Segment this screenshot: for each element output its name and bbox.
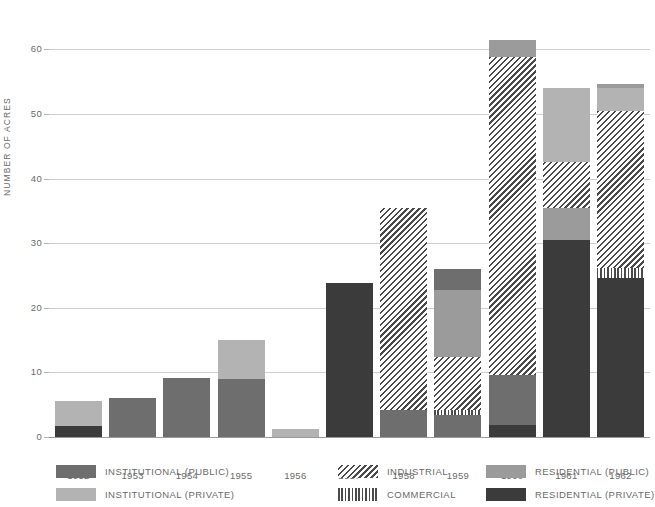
legend-swatch-industrial	[338, 465, 378, 478]
legend-label-res-pub: RESIDENTIAL (PUBLIC)	[535, 466, 649, 477]
legend-item-inst-pub[interactable]: INSTITUTIONAL (PUBLIC)	[56, 462, 234, 480]
bar-1962[interactable]	[597, 30, 644, 437]
legend-label-inst-pub: INSTITUTIONAL (PUBLIC)	[105, 466, 229, 477]
legend-swatch-res-priv	[486, 488, 526, 501]
bar-segment-1962-res-priv[interactable]	[597, 278, 644, 437]
y-tick-label-10: 10	[16, 366, 42, 377]
bar-1961[interactable]	[543, 30, 590, 437]
bar-1959[interactable]	[434, 30, 481, 437]
bar-1952[interactable]	[55, 30, 102, 437]
legend-column-1: INSTITUTIONAL (PUBLIC)INSTITUTIONAL (PRI…	[56, 462, 234, 507]
bar-segment-1957-res-priv[interactable]	[326, 283, 373, 437]
bar-1953[interactable]	[109, 30, 156, 437]
y-tick-label-50: 50	[16, 108, 42, 119]
y-tick-label-20: 20	[16, 302, 42, 313]
legend-label-res-priv: RESIDENTIAL (PRIVATE)	[535, 489, 655, 500]
legend-swatch-inst-pub	[56, 465, 96, 478]
bar-segment-1959-res-pub[interactable]	[434, 290, 481, 357]
legend-label-inst-priv: INSTITUTIONAL (PRIVATE)	[105, 489, 234, 500]
y-tick-label-60: 60	[16, 43, 42, 54]
bar-segment-1952-res-priv[interactable]	[55, 426, 102, 437]
bar-segment-1960-res-pub[interactable]	[489, 40, 536, 57]
chart-legend: INSTITUTIONAL (PUBLIC)INSTITUTIONAL (PRI…	[0, 462, 654, 506]
bar-segment-1958-industrial[interactable]	[380, 208, 427, 410]
legend-swatch-inst-priv	[56, 488, 96, 501]
bar-segment-1962-res-pub[interactable]	[597, 84, 644, 88]
gridline-0	[44, 437, 650, 438]
bar-segment-1962-industrial[interactable]	[597, 111, 644, 268]
bar-segment-1954-inst-pub[interactable]	[163, 378, 210, 437]
bar-segment-1960-inst-pub[interactable]	[489, 375, 536, 425]
y-tick-label-40: 40	[16, 173, 42, 184]
legend-label-industrial: INDUSTRIAL	[387, 466, 448, 477]
bar-segment-1958-inst-pub[interactable]	[380, 410, 427, 437]
bar-segment-1956-inst-priv[interactable]	[272, 429, 319, 437]
legend-item-res-priv[interactable]: RESIDENTIAL (PRIVATE)	[486, 485, 655, 503]
bar-segment-1953-inst-pub[interactable]	[109, 398, 156, 437]
bar-1957[interactable]	[326, 30, 373, 437]
bar-segment-1952-inst-priv[interactable]	[55, 401, 102, 426]
legend-column-3: RESIDENTIAL (PUBLIC)RESIDENTIAL (PRIVATE…	[486, 462, 655, 507]
bar-segment-1961-industrial[interactable]	[543, 162, 590, 208]
legend-item-inst-priv[interactable]: INSTITUTIONAL (PRIVATE)	[56, 485, 234, 503]
bar-segment-1962-inst-priv[interactable]	[597, 88, 644, 111]
bar-segment-1955-inst-pub[interactable]	[218, 379, 265, 437]
bar-segment-1960-industrial[interactable]	[489, 57, 536, 375]
y-tick-mark-0	[44, 437, 49, 438]
legend-item-commercial[interactable]: COMMERCIAL	[338, 485, 456, 503]
y-axis-title: NUMBER OF ACRES	[2, 97, 12, 196]
bar-segment-1955-inst-priv[interactable]	[218, 340, 265, 379]
legend-label-commercial: COMMERCIAL	[387, 489, 456, 500]
bar-1955[interactable]	[218, 30, 265, 437]
bar-segment-1959-inst-pub[interactable]	[434, 269, 481, 290]
bar-segment-1961-inst-priv[interactable]	[543, 88, 590, 162]
legend-column-2: INDUSTRIALCOMMERCIAL	[338, 462, 456, 507]
bar-1958[interactable]	[380, 30, 427, 437]
bar-1954[interactable]	[163, 30, 210, 437]
legend-swatch-res-pub	[486, 465, 526, 478]
bar-segment-1959-commercial[interactable]	[434, 410, 481, 415]
bar-segment-1961-res-priv[interactable]	[543, 240, 590, 437]
legend-item-res-pub[interactable]: RESIDENTIAL (PUBLIC)	[486, 462, 655, 480]
bar-segment-1959-industrial[interactable]	[434, 357, 481, 410]
bar-segment-1959-inst-pub[interactable]	[434, 415, 481, 437]
plot-area: 1952195319541955195619571958195919601961…	[49, 30, 650, 437]
y-tick-label-30: 30	[16, 237, 42, 248]
legend-item-industrial[interactable]: INDUSTRIAL	[338, 462, 456, 480]
legend-swatch-commercial	[338, 488, 378, 501]
bar-segment-1962-commercial[interactable]	[597, 268, 644, 278]
bar-segment-1960-res-priv[interactable]	[489, 425, 536, 437]
bar-1960[interactable]	[489, 30, 536, 437]
bar-1956[interactable]	[272, 30, 319, 437]
bar-segment-1961-res-pub[interactable]	[543, 208, 590, 240]
y-tick-label-0: 0	[16, 431, 42, 442]
